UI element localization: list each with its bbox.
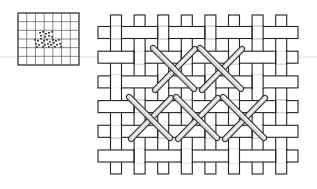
weft-thread — [98, 125, 298, 137]
warp-over-weft — [276, 51, 287, 64]
thumbnail-mini-mark — [45, 33, 47, 35]
thumbnail-mini-mark — [51, 31, 53, 33]
thumbnail-mini-mark — [42, 31, 44, 33]
thumbnail-mini-mark — [44, 44, 46, 46]
thumbnail-mini-mark — [55, 40, 57, 42]
warp-over-weft — [111, 26, 122, 39]
thumbnail-mini-mark — [46, 39, 48, 41]
warp-over-weft — [205, 26, 216, 39]
thumbnail-mini-mark — [40, 35, 42, 37]
thumbnail-mini-mark — [38, 44, 40, 46]
thumbnail-mini-mark — [42, 46, 44, 48]
weft-thread — [98, 101, 298, 113]
thumbnail-mini-mark — [51, 36, 53, 38]
weft-thread — [98, 51, 298, 63]
weft-thread — [98, 27, 298, 39]
warp-over-weft — [134, 51, 145, 64]
warp-over-weft — [134, 149, 145, 162]
thumbnail-mini-mark — [59, 43, 61, 45]
warp-over-weft — [158, 26, 169, 39]
thumbnail-mini-mark — [48, 32, 50, 34]
thumbnail-mini-mark — [54, 46, 56, 48]
thumbnail-mini-mark — [40, 38, 42, 40]
warp-over-weft — [111, 75, 122, 88]
thumbnail-mini-mark — [37, 40, 39, 42]
chart-thumbnail — [18, 13, 79, 65]
thumbnail-mini-mark — [34, 39, 36, 41]
warp-over-weft — [276, 149, 287, 162]
thumbnail-mini-mark — [47, 43, 49, 45]
warp-over-weft — [181, 149, 192, 162]
thumbnail-mini-mark — [39, 32, 41, 34]
thumbnail-mini-mark — [36, 46, 38, 48]
thumbnail-mini-mark — [52, 39, 54, 41]
thumbnail-mini-mark — [48, 35, 50, 37]
weft-thread — [98, 150, 298, 162]
thumbnail-mini-mark — [48, 46, 50, 48]
warp-over-weft — [111, 125, 122, 138]
warp-over-weft — [229, 149, 240, 162]
thumbnail-mini-mark — [53, 42, 55, 44]
cross-stitch-diagram — [0, 0, 317, 189]
thumbnail-mini-mark — [50, 44, 52, 46]
thumbnail-mini-mark — [60, 46, 62, 48]
thumbnail-mini-mark — [58, 39, 60, 41]
thumbnail-mini-mark — [49, 41, 51, 43]
thumbnail-mini-mark — [41, 42, 43, 44]
warp-over-weft — [252, 26, 263, 39]
weft-thread — [98, 76, 298, 88]
thumbnail-mini-mark — [43, 40, 45, 42]
warp-over-weft — [276, 100, 287, 113]
warp-over-weft — [252, 75, 263, 88]
thumbnail-mini-mark — [44, 36, 46, 38]
thumbnail-mini-mark — [56, 44, 58, 46]
thumbnail-mini-mark — [35, 43, 37, 45]
